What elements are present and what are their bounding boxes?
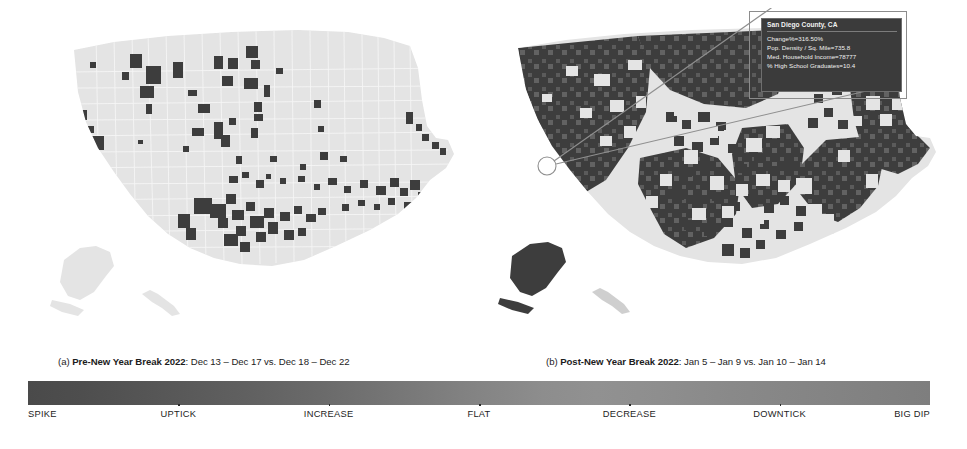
map-b-alaska <box>498 242 566 314</box>
colorbar-label-increase: INCREASE <box>304 409 354 419</box>
colorbar-label-spike: SPIKE <box>28 409 57 419</box>
tooltip-line-graduates: % High School Graduates=10.4 <box>767 63 897 70</box>
caption-panel-a: (a) Pre-New Year Break 2022: Dec 13 – De… <box>58 356 350 367</box>
colorbar-label-decrease: DECREASE <box>603 409 656 419</box>
colorbar-tick <box>329 404 331 407</box>
caption-b-detail: : Jan 5 – Jan 9 vs. Jan 10 – Jan 14 <box>679 356 826 367</box>
map-a-base-layer <box>50 28 458 316</box>
caption-a-detail: : Dec 13 – Dec 17 vs. Dec 18 – Dec 22 <box>186 356 350 367</box>
colorbar-tick <box>629 404 631 407</box>
colorbar-label-row: SPIKEUPTICKINCREASEFLATDECREASEDOWNTICKB… <box>0 409 967 425</box>
caption-a-title: Pre-New Year Break 2022 <box>72 356 185 367</box>
colorbar-label-downtick: DOWNTICK <box>753 409 806 419</box>
figure-container: San Diego County, CA Change%=316.50% Pop… <box>0 0 967 449</box>
tooltip-line-income: Med. Household Income=78777 <box>767 54 897 61</box>
us-county-map-a <box>18 8 473 348</box>
map-panel-a <box>18 8 473 348</box>
tooltip-line-density: Pop. Density / Sq. Mile=735.8 <box>767 45 897 52</box>
tooltip-divider <box>767 31 897 32</box>
tooltip-line-change: Change%=316.50% <box>767 36 897 43</box>
colorbar-gradient <box>28 381 930 405</box>
colorbar-tick <box>780 404 782 407</box>
colorbar-label-uptick: UPTICK <box>161 409 197 419</box>
caption-panel-b: (b) Post-New Year Break 2022: Jan 5 – Ja… <box>546 356 826 367</box>
caption-b-title: Post-New Year Break 2022 <box>560 356 679 367</box>
map-b-hawaii <box>592 288 630 314</box>
colorbar-container <box>28 381 930 405</box>
tooltip-title: San Diego County, CA <box>767 22 897 29</box>
caption-a-tag: (a) <box>58 356 70 367</box>
county-tooltip: San Diego County, CA Change%=316.50% Pop… <box>761 18 902 92</box>
colorbar-tick <box>178 404 180 407</box>
colorbar-label-flat: FLAT <box>467 409 490 419</box>
colorbar-tick <box>479 404 481 407</box>
colorbar-label-big-dip: BIG DIP <box>894 409 930 419</box>
caption-b-tag: (b) <box>546 356 558 367</box>
